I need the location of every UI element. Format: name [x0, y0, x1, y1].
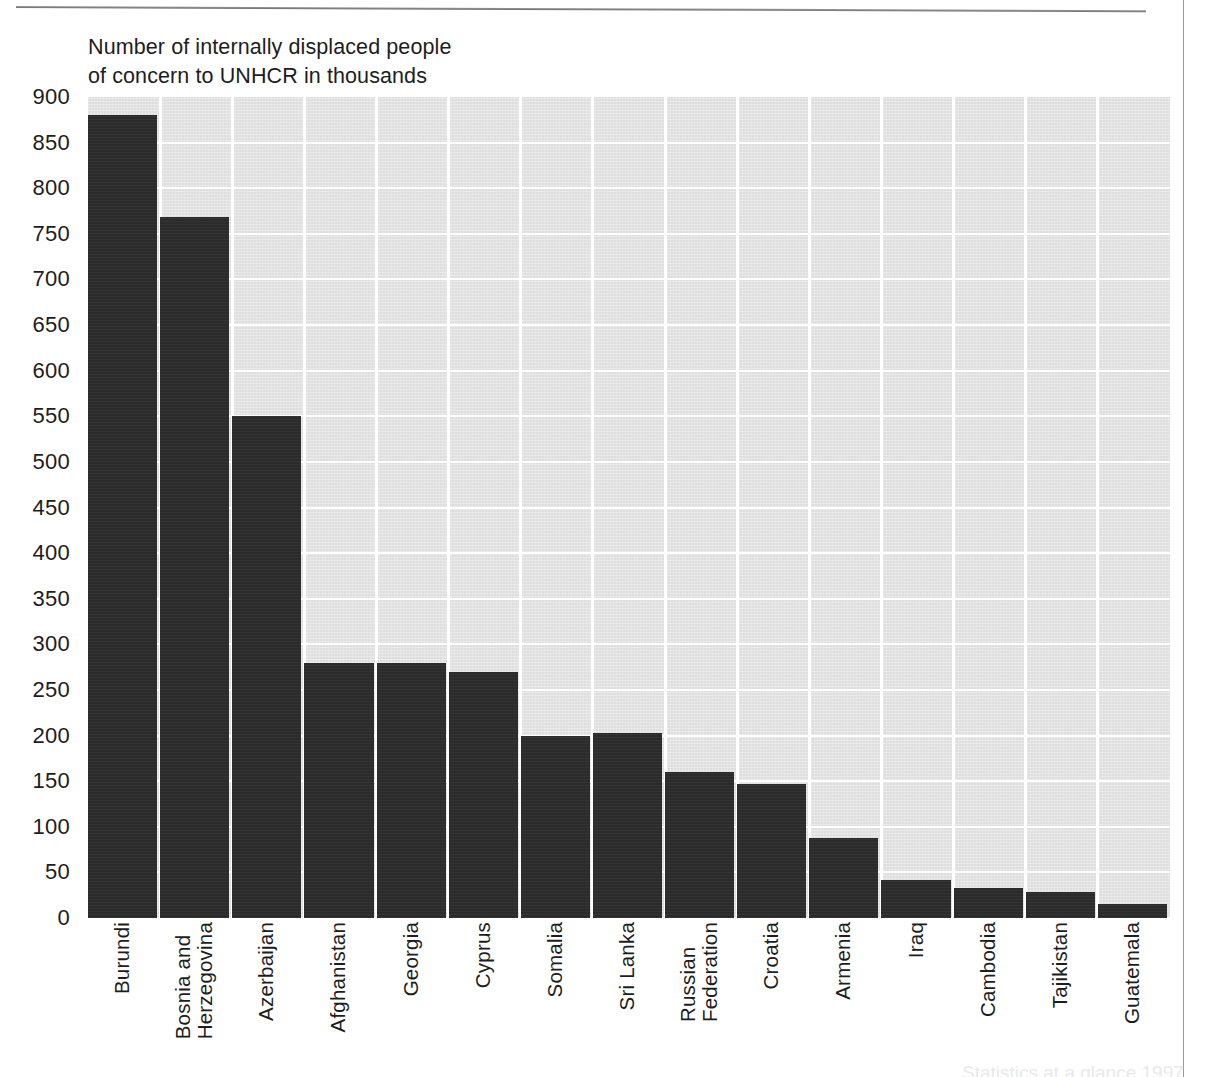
- x-axis-tick-label: Cyprus: [449, 922, 518, 1072]
- bar: [377, 663, 446, 918]
- x-axis-tick-label: Croatia: [737, 922, 806, 1072]
- y-axis-tick-label: 100: [32, 816, 70, 838]
- x-axis-tick-label: Cambodia: [954, 922, 1023, 1072]
- bar: [449, 672, 518, 918]
- x-axis-tick-label: Tajikistan: [1026, 922, 1095, 1072]
- x-axis-tick-label-line: Guatemala: [1121, 922, 1143, 1024]
- x-axis-tick-label-line: Somalia: [544, 922, 566, 997]
- y-axis-tick-label: 200: [32, 725, 70, 747]
- x-axis-tick-label-line: Cyprus: [472, 922, 494, 988]
- x-axis-tick-label: Burundi: [88, 922, 157, 1072]
- y-axis-tick-label: 300: [32, 633, 70, 655]
- y-axis-tick-label: 500: [32, 451, 70, 473]
- y-axis-tick-label: 400: [32, 542, 70, 564]
- y-axis-tick-label: 650: [32, 314, 70, 336]
- x-axis-tick-label-line: Afghanistan: [327, 922, 349, 1032]
- bar: [521, 736, 590, 918]
- x-axis-tick-label-line: Georgia: [400, 922, 422, 996]
- chart-title-line-2: of concern to UNHCR in thousands: [88, 62, 451, 91]
- x-axis-tick-label: Guatemala: [1098, 922, 1167, 1072]
- bar: [593, 733, 662, 918]
- x-axis-tick-label: Sri Lanka: [593, 922, 662, 1072]
- y-axis-tick-label: 850: [32, 132, 70, 154]
- x-axis-tick-label-line: Burundi: [111, 922, 133, 994]
- y-axis-tick-label: 150: [32, 770, 70, 792]
- x-axis-tick-label-line: Herzegovina: [194, 922, 216, 1039]
- x-axis-tick-label-line: Bosnia and: [172, 922, 194, 1039]
- chart-page: Number of internally displaced people of…: [0, 0, 1208, 1077]
- x-axis-tick-label: Bosnia andHerzegovina: [160, 922, 229, 1072]
- bar: [304, 663, 373, 918]
- bar: [88, 115, 157, 918]
- y-axis-tick-label: 700: [32, 268, 70, 290]
- x-axis-tick-label-line: Russian: [677, 922, 699, 1022]
- bar: [160, 217, 229, 918]
- x-axis-tick-label: Azerbaijan: [232, 922, 301, 1072]
- bar: [232, 416, 301, 918]
- x-axis-tick-label: Afghanistan: [304, 922, 373, 1072]
- bar: [737, 784, 806, 918]
- y-axis-tick-label: 50: [45, 861, 70, 883]
- bar: [954, 888, 1023, 918]
- y-axis: 9008508007507006506005505004504003503002…: [0, 97, 80, 918]
- page-right-border: [1183, 0, 1184, 1077]
- x-axis-tick-label-line: Sri Lanka: [616, 922, 638, 1010]
- chart-title-line-1: Number of internally displaced people: [88, 33, 451, 62]
- x-axis-tick-label-line: Croatia: [760, 922, 782, 990]
- bar: [809, 838, 878, 918]
- y-axis-tick-label: 250: [32, 679, 70, 701]
- x-axis-tick-label-line: Tajikistan: [1049, 922, 1071, 1008]
- footer-ghost-text: Statistics at a glance 1997: [962, 1062, 1184, 1077]
- x-axis-tick-label: Somalia: [521, 922, 590, 1072]
- plot-area: [88, 97, 1170, 918]
- x-axis-tick-label-line: Armenia: [832, 922, 854, 1000]
- y-axis-tick-label: 550: [32, 405, 70, 427]
- x-axis-tick-label-line: Cambodia: [977, 922, 999, 1017]
- x-axis: BurundiBosnia andHerzegovinaAzerbaijanAf…: [88, 922, 1170, 1072]
- x-axis-tick-label-line: Iraq: [905, 922, 927, 958]
- x-axis-tick-label-line: Federation: [699, 922, 721, 1022]
- y-axis-tick-label: 900: [32, 86, 70, 108]
- bar-series: [88, 97, 1170, 918]
- y-axis-tick-label: 350: [32, 588, 70, 610]
- x-axis-tick-label-line: Azerbaijan: [255, 922, 277, 1021]
- chart-title: Number of internally displaced people of…: [88, 33, 451, 91]
- bar: [1026, 892, 1095, 918]
- bar: [1098, 904, 1167, 918]
- x-axis-tick-label: Armenia: [809, 922, 878, 1072]
- x-axis-tick-label: Iraq: [881, 922, 950, 1072]
- bar: [881, 880, 950, 918]
- y-axis-tick-label: 0: [57, 907, 70, 929]
- x-axis-tick-label: RussianFederation: [665, 922, 734, 1072]
- page-top-rule: [16, 6, 1146, 12]
- y-axis-tick-label: 450: [32, 497, 70, 519]
- x-axis-tick-label: Georgia: [377, 922, 446, 1072]
- y-axis-tick-label: 800: [32, 177, 70, 199]
- y-axis-tick-label: 750: [32, 223, 70, 245]
- y-axis-tick-label: 600: [32, 360, 70, 382]
- bar: [665, 772, 734, 918]
